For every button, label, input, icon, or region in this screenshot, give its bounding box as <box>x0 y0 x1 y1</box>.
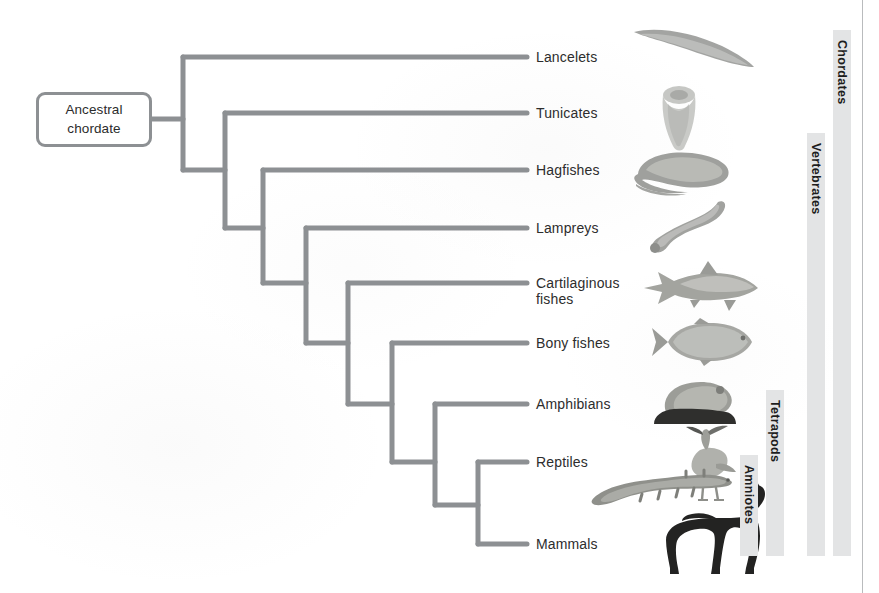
tip-label-lancelets: Lancelets <box>536 49 597 65</box>
clade-label-tetrapods: Tetrapods <box>768 400 782 462</box>
chordate-phylogeny-figure: Ancestral chordate Lancelets Tunicates H… <box>0 0 879 593</box>
lamprey-silhouette <box>634 196 730 258</box>
ancestral-chordate-box: Ancestral chordate <box>36 92 152 147</box>
tip-label-amphibians: Amphibians <box>536 396 611 412</box>
tip-label-mammals: Mammals <box>536 536 598 552</box>
tip-label-reptiles: Reptiles <box>536 454 588 470</box>
shark-silhouette <box>628 258 760 314</box>
clade-bar-vertebrates: Vertebrates <box>807 133 825 556</box>
frog-silhouette <box>648 372 740 424</box>
tip-label-tunicates: Tunicates <box>536 105 598 121</box>
bony-fish-silhouette <box>648 318 756 366</box>
clade-bar-tetrapods: Tetrapods <box>766 390 784 556</box>
ancestral-chordate-label-line2: chordate <box>67 120 120 138</box>
clade-bar-amniotes: Amniotes <box>740 455 758 556</box>
clade-bar-chordates: Chordates <box>833 30 851 556</box>
tip-label-bony-fishes: Bony fishes <box>536 335 610 351</box>
clade-label-chordates: Chordates <box>835 40 849 105</box>
hagfish-silhouette <box>626 140 736 200</box>
tip-label-hagfishes: Hagfishes <box>536 162 600 178</box>
tip-label-lampreys: Lampreys <box>536 220 599 236</box>
tip-label-cartilaginous-fishes: Cartilaginous fishes <box>536 275 620 307</box>
lancelet-silhouette <box>630 22 756 70</box>
clade-label-amniotes: Amniotes <box>742 465 756 524</box>
ancestral-chordate-label-line1: Ancestral <box>65 101 122 119</box>
clade-label-vertebrates: Vertebrates <box>809 143 823 214</box>
